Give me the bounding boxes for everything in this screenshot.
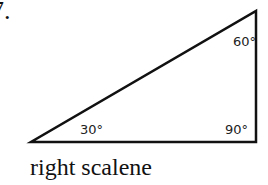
angle-label-bottom-right: 90° (225, 123, 248, 136)
triangle-outline (31, 11, 256, 142)
triangle-classification-caption: right scalene (30, 155, 152, 179)
angle-label-bottom-left: 30° (80, 123, 103, 136)
angle-label-top-right: 60° (233, 35, 256, 48)
